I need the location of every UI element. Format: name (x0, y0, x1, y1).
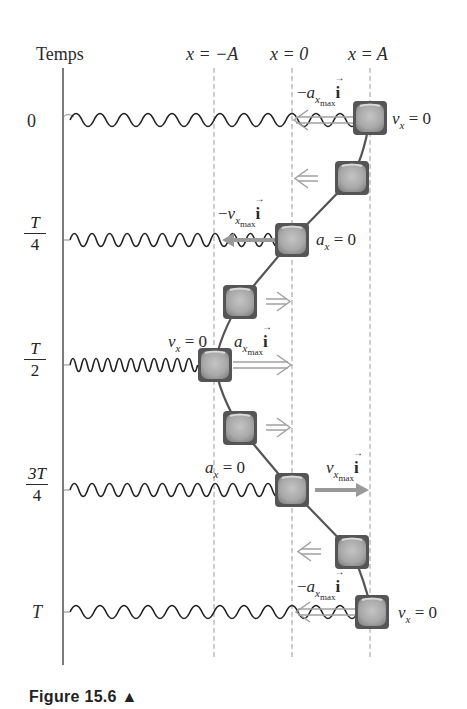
accel-arrow-small-2 (266, 292, 290, 311)
annotation-neg-a-max-t0: −axmaxi (297, 84, 340, 101)
fraction-numerator: 3T (22, 465, 52, 484)
mass-block-t-three-quarter (275, 473, 309, 507)
annotation-a-max-t-half: axmaxi (234, 333, 268, 350)
time-label-t: T (32, 603, 42, 621)
position-label-zero: x = 0 (270, 45, 308, 63)
annotation-vx-zero-t-full: vx = 0 (398, 604, 437, 621)
annotation-vx-zero-t0: vx = 0 (392, 110, 431, 127)
spring-t-full (63, 606, 358, 619)
unit-vector-i: i (354, 459, 359, 476)
figure-caption: Figure 15.6 ▲ (29, 688, 138, 706)
fraction-numerator: T (20, 340, 50, 359)
annotation-v-max-t-three-quarter: vxmaxi (326, 459, 359, 476)
mass-block-t-half (198, 348, 232, 382)
mass-block-t0 (353, 101, 387, 135)
time-label-t-half: T 2 (20, 340, 50, 379)
position-label-neg-a: x = −A (186, 45, 238, 63)
mass-block-t-full (355, 595, 389, 629)
fraction-denominator: 4 (20, 234, 50, 253)
mass-block-t3 (223, 285, 257, 319)
velocity-arrow-t-three-quarter (315, 483, 369, 497)
accel-arrow-t-half (233, 355, 291, 375)
annotation-neg-a-max-t-full: −axmaxi (297, 578, 340, 595)
spring-t-three-quarter (63, 484, 281, 497)
time-label-t-quarter: T 4 (20, 214, 50, 253)
fraction-numerator: T (20, 214, 50, 233)
accel-arrow-small-4 (298, 542, 321, 561)
fraction-denominator: 4 (22, 485, 52, 504)
unit-vector-i: i (335, 84, 340, 101)
accel-arrow-t0 (294, 110, 353, 130)
mass-block-t1 (335, 161, 369, 195)
accel-arrow-small-3 (266, 418, 290, 437)
annotation-ax-zero-t-quarter: ax = 0 (316, 231, 356, 248)
mass-block-t5 (223, 411, 257, 445)
annotation-neg-v-max-t-quarter: −vxmaxi (218, 205, 260, 222)
time-label-t-three-quarter: 3T 4 (22, 465, 52, 504)
fraction-denominator: 2 (20, 360, 50, 379)
position-label-pos-a: x = A (348, 45, 388, 63)
annotation-ax-zero-t-three-quarter: ax = 0 (205, 459, 245, 476)
mass-block-t7 (335, 535, 369, 569)
time-label-0: 0 (27, 112, 36, 130)
spring-t0 (63, 114, 358, 127)
diagram-canvas (0, 0, 467, 709)
shm-mass-spring-diagram: Temps x = −A x = 0 x = A 0 T 4 T 2 3T 4 … (0, 0, 467, 709)
unit-vector-i: i (263, 333, 268, 350)
unit-vector-i: i (256, 205, 261, 222)
unit-vector-i: i (335, 578, 340, 595)
mass-block-t-quarter (275, 223, 309, 257)
spring-t-half (63, 359, 198, 372)
annotation-vx-zero-t-half: vx = 0 (168, 333, 207, 350)
time-axis-label: Temps (36, 45, 84, 63)
accel-arrow-small-1 (295, 169, 318, 188)
